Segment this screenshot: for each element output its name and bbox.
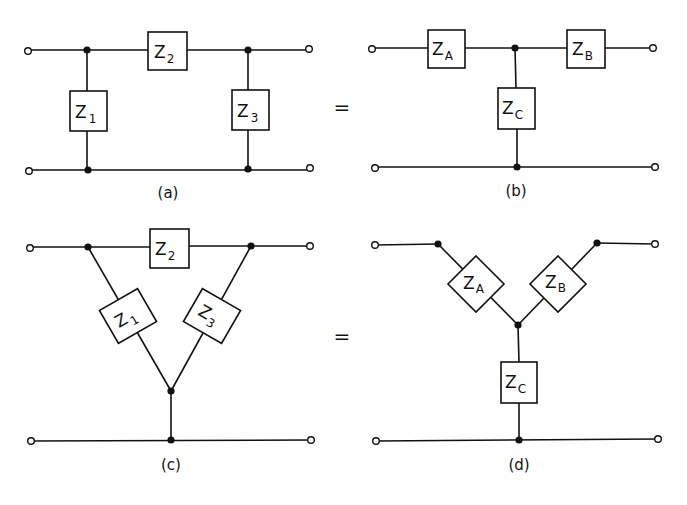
impedance-z1-c: Z1 [99, 289, 156, 344]
equals-sign-bottom: = [334, 324, 351, 348]
terminal-open-circle [25, 48, 32, 55]
node-dot [514, 321, 521, 328]
node-dot [511, 44, 518, 51]
node-dot [434, 240, 441, 247]
impedance-z2-c: Z2 [150, 229, 189, 268]
terminal-open-circle [373, 438, 380, 445]
node-dot [513, 163, 520, 170]
panel-d-wye-network: ZA ZB ZC (d) [372, 239, 662, 474]
node-dot [167, 436, 174, 443]
impedance-z2-a: Z2 [148, 32, 187, 70]
impedance-zb-b: ZB [567, 30, 605, 68]
terminal-open-circle [306, 46, 313, 53]
impedance-zc-b: ZC [498, 88, 535, 129]
caption-d: (d) [508, 456, 529, 474]
node-dot [84, 243, 91, 250]
impedance-zc-d: ZC [501, 362, 537, 403]
circuit-diagram: Z2 Z1 Z3 (a) = ZA [0, 0, 687, 505]
node-dot [244, 46, 251, 53]
node-dot [593, 239, 600, 246]
terminal-open-circle [369, 46, 376, 53]
terminal-open-circle [652, 241, 659, 248]
terminal-open-circle [28, 438, 35, 445]
node-dot [83, 46, 90, 53]
impedance-za-b: ZA [428, 30, 465, 68]
terminal-open-circle [307, 165, 314, 172]
panel-b-t-network: ZA ZB ZC (b) [369, 30, 659, 200]
caption-b: (b) [505, 182, 526, 200]
panel-a-pi-network: Z2 Z1 Z3 (a) [25, 32, 314, 202]
impedance-z3-c: Z3 [183, 289, 240, 344]
node-dot [167, 387, 174, 394]
terminal-open-circle [26, 168, 33, 175]
node-dot [84, 166, 91, 173]
terminal-open-circle [372, 242, 379, 249]
terminal-open-circle [650, 45, 657, 52]
terminal-open-circle [307, 243, 314, 250]
impedance-za-d: ZA [448, 256, 504, 312]
terminal-open-circle [372, 165, 379, 172]
node-dot [244, 165, 251, 172]
terminal-open-circle [27, 245, 34, 252]
terminal-open-circle [652, 164, 659, 171]
panel-c-delta-network: Z2 Z1 Z3 (c) [27, 229, 315, 474]
terminal-open-circle [308, 437, 315, 444]
caption-a: (a) [158, 184, 179, 202]
caption-c: (c) [161, 456, 181, 474]
impedance-z3-a: Z3 [232, 90, 269, 130]
terminal-open-circle [655, 436, 662, 443]
impedance-z1-a: Z1 [70, 91, 107, 131]
node-dot [515, 436, 522, 443]
node-dot [247, 242, 254, 249]
equals-sign-top: = [334, 95, 351, 119]
